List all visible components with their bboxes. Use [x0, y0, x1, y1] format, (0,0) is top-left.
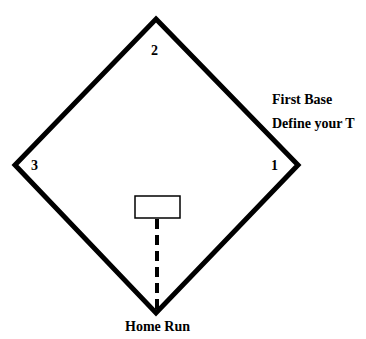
home-run-label: Home Run [125, 320, 190, 334]
second-base-number: 2 [151, 44, 158, 58]
third-base-number: 3 [31, 159, 38, 173]
first-base-subtitle: Define your T [272, 117, 355, 131]
first-base-number: 1 [271, 159, 278, 173]
batter-box [135, 196, 180, 218]
diamond-graphic [0, 0, 366, 339]
baseball-diamond-diagram: 2 3 1 First Base Define your T Home Run [0, 0, 366, 339]
first-base-title: First Base [272, 93, 332, 107]
